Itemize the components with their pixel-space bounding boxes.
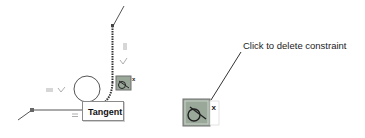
close-icon[interactable]: x [212,103,217,112]
callout-leader-line [211,52,241,100]
sketch-line-top [113,6,124,26]
large-tangent-constraint-icon[interactable] [183,99,210,126]
sketch-canvas: x x [0,0,365,138]
sketch-circle[interactable] [74,76,100,102]
constraint-tooltip: Tangent [82,101,124,121]
endpoint-marker [111,24,114,27]
sketch-line-left-slope [18,110,32,120]
small-close-icon[interactable]: x [132,76,136,82]
endpoint-marker [30,108,34,112]
small-tangent-constraint-icon[interactable] [116,76,131,90]
callout-text: Click to delete constraint [243,40,347,51]
